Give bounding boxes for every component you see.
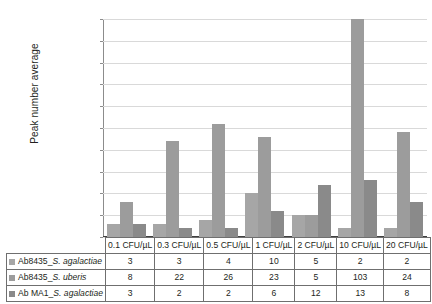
table-cell: 3 bbox=[106, 254, 155, 270]
table-header-row: 0.1 CFU/µL0.3 CFU/µL0.5 CFU/µL1 CFU/µL2 … bbox=[7, 238, 431, 254]
bar bbox=[305, 215, 318, 237]
bar bbox=[351, 19, 364, 237]
table-corner-cell bbox=[7, 238, 106, 254]
table-cell: 13 bbox=[337, 286, 384, 302]
legend-label-species: S. agalactiae bbox=[52, 256, 102, 266]
legend-item: Ab8435_S. uberis bbox=[7, 270, 106, 286]
table-row: Ab MA1_S. agalactiae322612138 bbox=[7, 286, 431, 302]
legend-item: Ab MA1_S. agalactiae bbox=[7, 286, 106, 302]
bar-group bbox=[381, 19, 427, 237]
bar bbox=[364, 180, 377, 237]
table-cell: 2 bbox=[155, 286, 204, 302]
table-cell: 8 bbox=[384, 286, 431, 302]
bar bbox=[120, 202, 133, 237]
column-header-0-3-cfu-l: 0.3 CFU/µL bbox=[155, 238, 204, 254]
column-header-0-1-cfu-l: 0.1 CFU/µL bbox=[106, 238, 155, 254]
table-cell: 6 bbox=[253, 286, 295, 302]
bar bbox=[225, 228, 238, 237]
table-cell: 2 bbox=[384, 254, 431, 270]
bar bbox=[318, 185, 331, 237]
bar-group bbox=[334, 19, 380, 237]
bar-group bbox=[149, 19, 195, 237]
plot-area: 05101520253035404550 bbox=[103, 19, 427, 237]
table-row: Ab8435_S. agalactiae33410522 bbox=[7, 254, 431, 270]
table-row: Ab8435_S. uberis8222623510324 bbox=[7, 270, 431, 286]
legend-swatch-icon bbox=[9, 259, 15, 265]
legend-label-species: S. agalactiae bbox=[53, 288, 103, 298]
legend-label-prefix: Ab8435_ bbox=[18, 256, 52, 266]
bar-group bbox=[103, 19, 149, 237]
legend-label-prefix: Ab MA1_ bbox=[18, 288, 53, 298]
bar bbox=[166, 141, 179, 237]
table-cell: 23 bbox=[253, 270, 295, 286]
table-cell: 26 bbox=[204, 270, 253, 286]
table-cell: 22 bbox=[155, 270, 204, 286]
bar bbox=[397, 132, 410, 237]
bar bbox=[384, 228, 397, 237]
bar bbox=[199, 220, 212, 237]
bar bbox=[410, 202, 423, 237]
data-table-legend: 0.1 CFU/µL0.3 CFU/µL0.5 CFU/µL1 CFU/µL2 … bbox=[6, 237, 431, 302]
bar bbox=[338, 228, 351, 237]
bar-chart: Peak number average 05101520253035404550… bbox=[0, 0, 432, 304]
bar bbox=[179, 228, 192, 237]
column-header-2-cfu-l: 2 CFU/µL bbox=[295, 238, 337, 254]
bar-group bbox=[242, 19, 288, 237]
column-header-0-5-cfu-l: 0.5 CFU/µL bbox=[204, 238, 253, 254]
column-header-10-cfu-l: 10 CFU/µL bbox=[337, 238, 384, 254]
table-cell: 12 bbox=[295, 286, 337, 302]
table-cell: 2 bbox=[337, 254, 384, 270]
column-header-1-cfu-l: 1 CFU/µL bbox=[253, 238, 295, 254]
column-header-20-cfu-l: 20 CFU/µL bbox=[384, 238, 431, 254]
bar-group bbox=[288, 19, 334, 237]
bar bbox=[292, 215, 305, 237]
bar bbox=[153, 224, 166, 237]
table-cell: 8 bbox=[106, 270, 155, 286]
table-cell: 103 bbox=[337, 270, 384, 286]
table-cell: 10 bbox=[253, 254, 295, 270]
table-cell: 3 bbox=[155, 254, 204, 270]
bar-group bbox=[196, 19, 242, 237]
legend-label-prefix: Ab8435_ bbox=[18, 272, 52, 282]
table-cell: 5 bbox=[295, 270, 337, 286]
bar bbox=[245, 193, 258, 237]
legend-swatch-icon bbox=[9, 291, 15, 297]
bar bbox=[133, 224, 146, 237]
legend-label-species: S. uberis bbox=[52, 272, 86, 282]
legend-item: Ab8435_S. agalactiae bbox=[7, 254, 106, 270]
legend-swatch-icon bbox=[9, 275, 15, 281]
table-cell: 4 bbox=[204, 254, 253, 270]
bar bbox=[212, 124, 225, 237]
table-cell: 3 bbox=[106, 286, 155, 302]
table-cell: 2 bbox=[204, 286, 253, 302]
bar bbox=[107, 224, 120, 237]
y-axis-title: Peak number average bbox=[29, 14, 40, 174]
bar bbox=[271, 211, 284, 237]
table-cell: 24 bbox=[384, 270, 431, 286]
table-cell: 5 bbox=[295, 254, 337, 270]
bar bbox=[258, 137, 271, 237]
